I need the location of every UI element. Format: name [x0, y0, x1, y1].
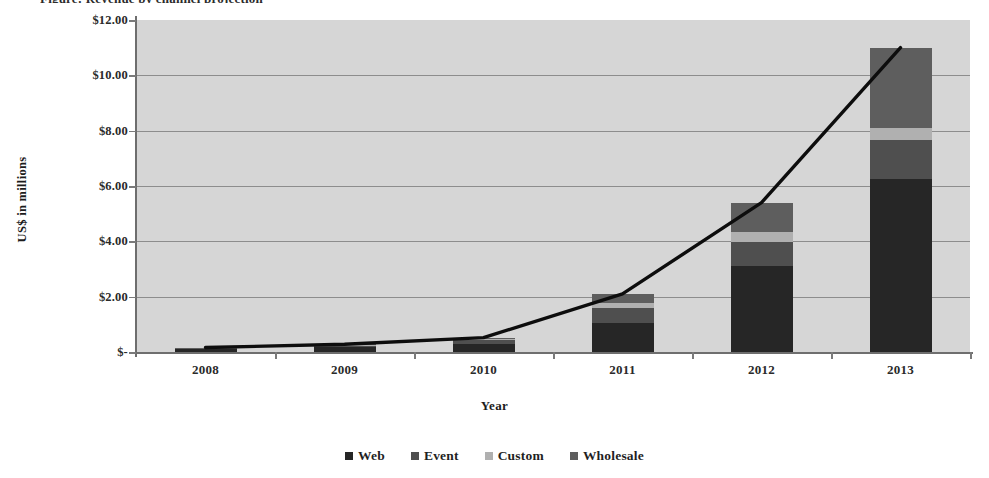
- legend-item[interactable]: Custom: [485, 448, 544, 464]
- total-line-path: [206, 48, 901, 348]
- chart-legend: WebEventCustomWholesale: [0, 448, 989, 464]
- legend-item[interactable]: Event: [411, 448, 459, 464]
- legend-swatch-icon: [345, 452, 353, 460]
- legend-label: Web: [358, 448, 385, 464]
- legend-item[interactable]: Web: [345, 448, 385, 464]
- legend-item[interactable]: Wholesale: [570, 448, 644, 464]
- legend-label: Wholesale: [583, 448, 644, 464]
- chart-figure: Figure: Revenue by channel projection US…: [0, 0, 989, 478]
- legend-swatch-icon: [570, 452, 578, 460]
- legend-swatch-icon: [411, 452, 419, 460]
- legend-swatch-icon: [485, 452, 493, 460]
- x-axis-title: Year: [0, 398, 989, 414]
- legend-label: Event: [424, 448, 459, 464]
- legend-label: Custom: [498, 448, 544, 464]
